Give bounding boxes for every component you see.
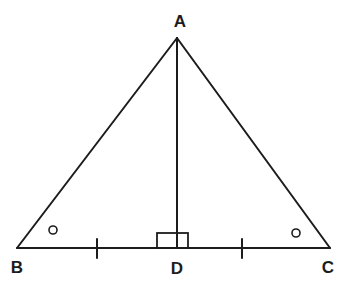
vertex-label-b: B	[11, 259, 23, 276]
triangle-diagram: A B C D	[0, 0, 351, 297]
triangle-figure-svg	[0, 0, 351, 297]
right-angle-mark	[157, 233, 188, 248]
angle-mark-c	[292, 229, 300, 237]
segment-ac	[177, 38, 330, 248]
vertex-label-d: D	[171, 260, 183, 277]
segment-ab	[17, 38, 177, 248]
vertex-label-a: A	[174, 13, 186, 30]
vertex-label-c: C	[322, 259, 334, 276]
angle-mark-b	[49, 226, 57, 234]
